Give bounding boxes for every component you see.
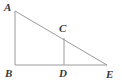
segment-ae-hypotenuse bbox=[15, 11, 107, 65]
vertex-label-d: D bbox=[59, 68, 67, 79]
vertex-label-c: C bbox=[59, 23, 66, 34]
vertex-label-a: A bbox=[4, 2, 11, 13]
geometry-figure: A B C D E bbox=[0, 0, 122, 84]
vertex-label-b: B bbox=[5, 68, 12, 79]
vertex-label-e: E bbox=[106, 69, 113, 80]
